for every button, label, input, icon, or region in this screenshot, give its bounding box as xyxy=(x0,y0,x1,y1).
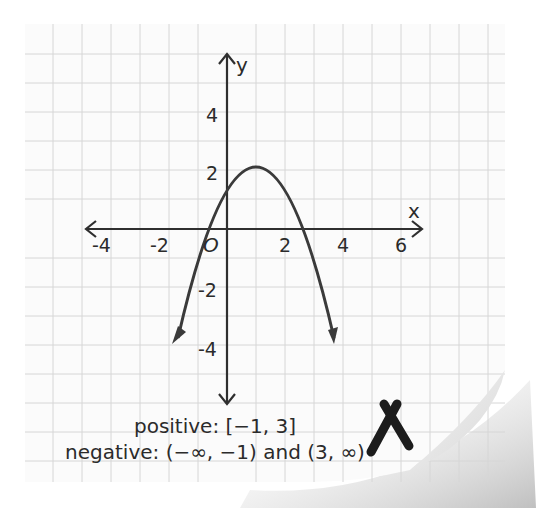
y-axis-label: y xyxy=(236,53,248,77)
origin-label: O xyxy=(203,233,219,257)
x-axis-label: x xyxy=(408,199,420,223)
positive-interval-annotation: positive: [−1, 3] xyxy=(0,414,430,438)
negative-interval-annotation: negative: (−∞, −1) and (3, ∞) xyxy=(0,440,430,464)
x-tick-label: 4 xyxy=(337,234,349,256)
x-tick-label: 6 xyxy=(395,234,407,256)
y-tick-label: -4 xyxy=(198,338,217,360)
y-tick-label: 4 xyxy=(206,104,218,126)
x-tick-label: -4 xyxy=(92,234,111,256)
x-tick-label: 2 xyxy=(279,234,291,256)
x-tick-label: -2 xyxy=(150,234,169,256)
y-tick-label: 2 xyxy=(206,162,218,184)
y-tick-label: -2 xyxy=(198,279,217,301)
